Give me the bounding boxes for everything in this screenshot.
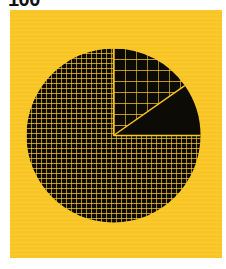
- page-canvas: 100: [0, 0, 226, 269]
- figure-panel: [10, 10, 222, 258]
- page-number-caption: 100: [8, 0, 40, 9]
- pie-chart-svg: [26, 48, 201, 223]
- pie-chart: [26, 48, 201, 223]
